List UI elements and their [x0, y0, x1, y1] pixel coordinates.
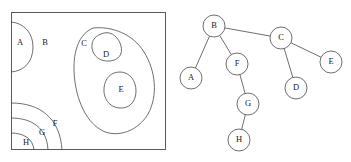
tree-edge-c-d [284, 49, 293, 78]
tree-node-b[interactable]: B [203, 15, 225, 37]
region-label-b: B [42, 37, 48, 47]
region-label-h: H [23, 137, 29, 147]
tree-edge-b-f [220, 35, 232, 54]
left-panel-regions: A B C D E F G H [11, 13, 166, 151]
region-frame [12, 13, 166, 150]
tree-node-label-e: E [328, 56, 333, 66]
right-panel-tree: BCAFEDGH [180, 15, 342, 151]
tree-node-label-a: A [188, 72, 195, 82]
tree-node-f[interactable]: F [226, 53, 248, 75]
tree-node-label-b: B [211, 20, 217, 30]
tree-edge-b-a [195, 36, 209, 68]
region-label-g: G [39, 127, 45, 137]
tree-node-group: BCAFEDGH [180, 15, 342, 151]
tree-edge-g-h [242, 115, 246, 130]
tree-node-label-h: H [236, 134, 242, 144]
containment-figure: A B C D E F G H BCAFEDGH [0, 0, 351, 162]
tree-node-g[interactable]: G [237, 93, 259, 115]
tree-node-h[interactable]: H [228, 129, 250, 151]
tree-node-d[interactable]: D [285, 77, 307, 99]
region-label-f: F [53, 118, 58, 128]
tree-edge-b-c [225, 28, 270, 36]
tree-node-e[interactable]: E [320, 51, 342, 73]
region-label-e: E [118, 84, 123, 94]
tree-node-c[interactable]: C [270, 27, 292, 49]
tree-node-label-c: C [278, 32, 284, 42]
tree-node-label-g: G [245, 98, 251, 108]
region-label-c: C [81, 38, 87, 48]
region-label-a: A [17, 37, 24, 47]
region-outline-a [11, 22, 33, 72]
tree-node-label-f: F [235, 58, 240, 68]
tree-edge-c-e [291, 43, 321, 57]
tree-node-label-d: D [293, 82, 299, 92]
region-label-d: D [103, 49, 109, 59]
tree-node-a[interactable]: A [180, 67, 202, 89]
tree-edge-f-g [240, 75, 245, 94]
